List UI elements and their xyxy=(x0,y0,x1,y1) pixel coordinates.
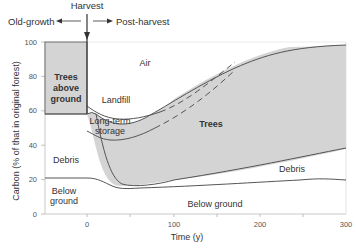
x-ticks xyxy=(87,214,303,217)
y-tick-40: 40 xyxy=(29,141,37,150)
region-label-below-right: Below ground xyxy=(187,199,242,209)
region-label-below-left-2: ground xyxy=(50,196,78,206)
region-label-trees-above-1: Trees xyxy=(54,72,78,82)
y-tick-60: 60 xyxy=(29,106,37,115)
right-arrow-icon xyxy=(107,19,113,24)
y-tick-80: 80 xyxy=(29,72,37,81)
harvest-label: Harvest xyxy=(71,0,104,11)
x-tick-100: 100 xyxy=(168,220,181,229)
region-label-air: Air xyxy=(140,58,151,68)
post-harvest-label: Post-harvest xyxy=(116,16,170,27)
region-label-debris-right: Debris xyxy=(279,164,306,174)
old-growth-label: Old-growth xyxy=(8,16,54,27)
y-tick-100: 100 xyxy=(24,38,37,47)
region-label-landfill: Landfill xyxy=(102,95,131,105)
y-tick-20: 20 xyxy=(29,175,37,184)
region-label-trees-above-3: ground xyxy=(51,94,82,104)
harvest-arrow-icon xyxy=(84,32,90,40)
y-axis-title: Carbon (% of that in original forest) xyxy=(11,61,21,201)
x-tick-200: 200 xyxy=(254,220,267,229)
y-tick-0: 0 xyxy=(33,210,37,219)
region-label-trees-above-2: above xyxy=(53,83,79,93)
region-label-trees: Trees xyxy=(199,119,223,129)
x-tick-300: 300 xyxy=(340,220,353,229)
left-arrow-icon xyxy=(56,19,62,24)
region-label-storage-1: Long-term xyxy=(89,116,130,126)
region-label-debris-left: Debris xyxy=(53,155,80,165)
x-tick-0: 0 xyxy=(85,220,89,229)
carbon-chart: Harvest Old-growth Post-harvest Trees ab… xyxy=(0,0,356,250)
below-ground-upper-line xyxy=(45,178,346,189)
x-axis-title: Time (y) xyxy=(171,232,204,242)
y-ticks xyxy=(41,42,45,214)
region-label-storage-2: storage xyxy=(95,126,125,136)
region-label-below-left-1: Below xyxy=(52,186,77,196)
